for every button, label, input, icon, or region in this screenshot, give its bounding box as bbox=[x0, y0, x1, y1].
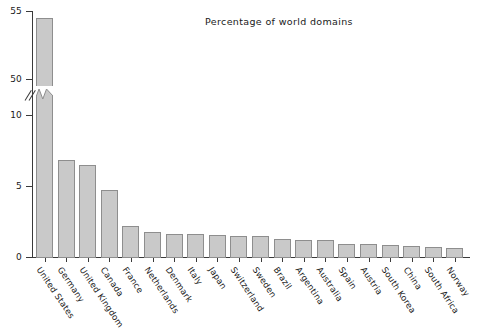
y-tick-mark bbox=[26, 186, 32, 187]
x-tick-mark bbox=[325, 258, 326, 262]
x-tick-mark bbox=[88, 258, 89, 262]
x-tick-mark bbox=[109, 258, 110, 262]
bar bbox=[36, 18, 53, 258]
x-tick-mark bbox=[347, 258, 348, 262]
x-tick-mark bbox=[390, 258, 391, 262]
bar bbox=[295, 240, 312, 258]
x-tick-mark bbox=[369, 258, 370, 262]
bar bbox=[317, 240, 334, 258]
x-tick-mark bbox=[174, 258, 175, 262]
bar bbox=[166, 234, 183, 258]
y-tick-mark bbox=[26, 79, 32, 80]
x-tick-mark bbox=[261, 258, 262, 262]
x-tick-mark bbox=[45, 258, 46, 262]
x-tick-mark bbox=[66, 258, 67, 262]
x-axis-category-label: Italy bbox=[185, 265, 204, 287]
bar bbox=[274, 239, 291, 258]
bar-axis-break bbox=[36, 86, 53, 104]
x-axis-category-label: China bbox=[401, 265, 423, 292]
y-tick-mark bbox=[26, 11, 32, 12]
bar bbox=[101, 190, 118, 258]
bar bbox=[403, 246, 420, 258]
y-tick-mark bbox=[26, 257, 32, 258]
x-axis-category-label: Brazil bbox=[272, 265, 294, 291]
y-tick-label: 0 bbox=[0, 252, 22, 262]
bar-chart: Percentage of world domains 05105055 Uni… bbox=[0, 0, 478, 336]
bar bbox=[122, 226, 139, 258]
x-tick-mark bbox=[153, 258, 154, 262]
y-tick-label: 10 bbox=[0, 110, 22, 120]
bar bbox=[58, 160, 75, 258]
x-axis-category-label: Spain bbox=[337, 265, 359, 291]
bar bbox=[187, 234, 204, 258]
bar bbox=[382, 245, 399, 258]
y-tick-label: 50 bbox=[0, 74, 22, 84]
bar bbox=[446, 248, 463, 258]
x-tick-mark bbox=[217, 258, 218, 262]
chart-title: Percentage of world domains bbox=[0, 16, 478, 27]
x-tick-mark bbox=[455, 258, 456, 262]
x-axis-category-label: Japan bbox=[207, 265, 229, 291]
bar bbox=[79, 165, 96, 258]
x-tick-mark bbox=[412, 258, 413, 262]
x-tick-mark bbox=[304, 258, 305, 262]
x-tick-mark bbox=[433, 258, 434, 262]
y-tick-mark bbox=[26, 115, 32, 116]
y-tick-label: 55 bbox=[0, 6, 22, 16]
x-tick-mark bbox=[196, 258, 197, 262]
y-tick-label: 5 bbox=[0, 181, 22, 191]
bar bbox=[360, 244, 377, 258]
bar bbox=[425, 247, 442, 258]
bar bbox=[338, 244, 355, 258]
x-tick-mark bbox=[239, 258, 240, 262]
bar bbox=[230, 236, 247, 258]
bar bbox=[209, 235, 226, 258]
x-tick-mark bbox=[131, 258, 132, 262]
bar bbox=[144, 232, 161, 258]
y-axis-line bbox=[32, 11, 33, 258]
bar bbox=[252, 236, 269, 258]
x-tick-mark bbox=[282, 258, 283, 262]
